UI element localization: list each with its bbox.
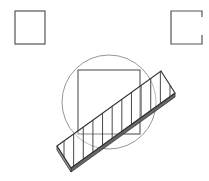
left-square — [15, 11, 45, 44]
bar-top-face — [57, 71, 175, 168]
inclined-bar — [57, 71, 175, 172]
right-bracket-shape — [171, 11, 202, 44]
diagram-canvas — [0, 0, 209, 181]
